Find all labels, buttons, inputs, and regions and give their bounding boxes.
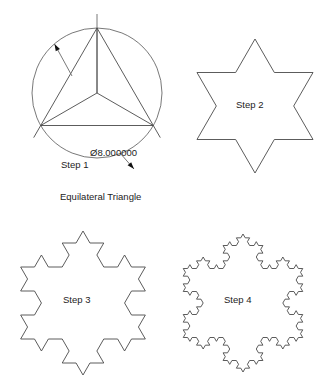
step-1-label: Step 1 — [61, 160, 88, 170]
panel-step-4 — [160, 225, 323, 387]
diameter-dimension-label: Ø8.000000 — [90, 148, 137, 158]
step-1-caption: Equilateral Triangle — [60, 192, 141, 202]
radius-line-3 — [97, 93, 153, 126]
step-3-drawing — [0, 225, 166, 387]
diagram-canvas: Step 1 Ø8.000000 Equilateral Triangle St… — [0, 0, 323, 387]
step-4-drawing — [160, 225, 323, 387]
triangle-left-side — [34, 28, 97, 138]
panel-step-3 — [0, 225, 166, 387]
panel-step-1 — [0, 0, 190, 210]
radius-leader-arrowhead — [55, 44, 60, 51]
step-1-drawing — [0, 0, 190, 210]
step-2-label: Step 2 — [236, 100, 263, 110]
step-3-label: Step 3 — [63, 295, 90, 305]
triangle-right-side — [97, 28, 160, 138]
radius-line-2 — [41, 93, 97, 126]
step-4-label: Step 4 — [224, 295, 251, 305]
